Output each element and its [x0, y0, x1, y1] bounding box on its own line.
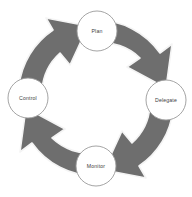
control-node-label: Control	[19, 95, 37, 101]
stage-node-delegate[interactable]: Delegate	[146, 80, 186, 120]
plan-node-label: Plan	[92, 28, 103, 34]
cycle-diagram: Plan Delegate Monitor Control	[0, 0, 192, 197]
stage-node-control[interactable]: Control	[8, 78, 48, 118]
diagram-canvas: Plan Delegate Monitor Control	[0, 0, 192, 197]
stage-node-monitor[interactable]: Monitor	[76, 146, 116, 186]
delegate-node-label: Delegate	[155, 97, 177, 103]
monitor-node-label: Monitor	[87, 163, 105, 169]
stage-node-plan[interactable]: Plan	[77, 11, 117, 51]
